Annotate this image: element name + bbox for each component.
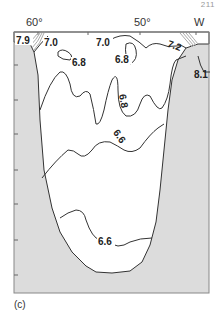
svg-text:6.6: 6.6 xyxy=(98,236,112,247)
svg-text:8.1: 8.1 xyxy=(194,69,208,80)
contour-label-6-8-small: 6.8 xyxy=(71,57,89,68)
contour-label-7-0-mid: 7.0 xyxy=(95,37,113,48)
svg-text:6.8: 6.8 xyxy=(115,54,129,65)
contour-map: 7.9 7.0 7.0 7.2 6.8 6.8 8.1 6.8 6.6 6.6 xyxy=(0,0,221,322)
svg-text:7.0: 7.0 xyxy=(96,37,110,48)
contour-label-7-9: 7.9 xyxy=(15,35,33,46)
svg-text:7.9: 7.9 xyxy=(16,35,30,46)
contour-label-6-6-bottom: 6.6 xyxy=(97,236,115,247)
contour-label-8-1: 8.1 xyxy=(194,69,208,80)
contour-label-6-8-top: 6.8 xyxy=(114,54,132,65)
contour-label-7-0-left: 7.0 xyxy=(43,37,61,48)
panel-label: (c) xyxy=(14,299,26,310)
svg-text:6.8: 6.8 xyxy=(72,57,86,68)
svg-text:7.0: 7.0 xyxy=(44,37,58,48)
